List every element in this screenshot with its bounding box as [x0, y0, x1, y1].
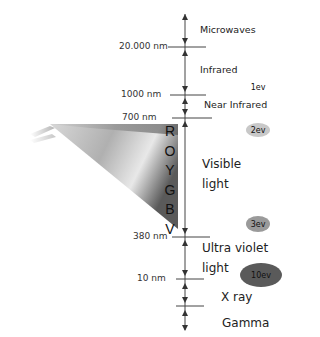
band-infrared: Infrared	[200, 64, 237, 75]
band-gamma: Gamma	[222, 313, 269, 333]
band-visible-line2: light	[202, 174, 241, 194]
energy-label-2ev: 2ev	[251, 126, 266, 135]
label-10nm: 10 nm	[137, 273, 166, 283]
energy-label-1ev: 1ev	[251, 83, 266, 92]
energy-marker-3ev: 3ev	[246, 216, 270, 232]
letter-r: R	[163, 122, 177, 142]
spectrum-letters: R O Y G B V	[163, 122, 177, 239]
band-near-infrared: Near Infrared	[204, 99, 267, 110]
energy-marker-1ev: 1ev	[245, 80, 271, 94]
energy-marker-10ev: 10ev	[240, 263, 282, 287]
letter-o: O	[163, 142, 177, 162]
energy-label-10ev: 10ev	[251, 271, 271, 280]
label-700nm: 700 nm	[122, 112, 157, 122]
band-visible-line1: Visible	[202, 154, 241, 174]
energy-label-3ev: 3ev	[251, 220, 266, 229]
energy-marker-2ev: 2ev	[246, 123, 270, 137]
letter-g: G	[163, 181, 177, 201]
dispersion-wedge	[50, 124, 178, 229]
letter-v: V	[163, 220, 177, 240]
band-visible-light: Visible light	[202, 154, 241, 194]
band-uv-line1: Ultra violet	[202, 238, 268, 258]
letter-b: B	[163, 200, 177, 220]
incoming-light-beam	[30, 126, 56, 143]
label-20000nm: 20.000 nm	[119, 41, 168, 51]
band-microwaves: Microwaves	[200, 24, 256, 35]
label-1000nm: 1000 nm	[121, 89, 161, 99]
letter-y: Y	[163, 161, 177, 181]
band-x-ray: X ray	[221, 287, 252, 307]
